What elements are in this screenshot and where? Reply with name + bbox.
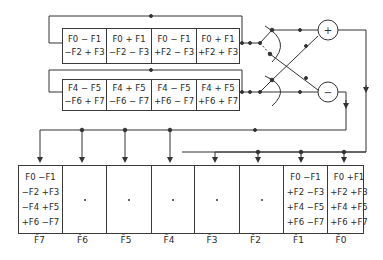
placeholder-dot — [172, 199, 174, 201]
register-b-cell: F4 + F5+F6 + F7 — [197, 80, 239, 110]
register-b-cell: F4 − F5+F6 − F7 — [152, 80, 197, 110]
register-a-cell: F0 − F1−F2 + F3 — [63, 29, 107, 63]
placeholder-dot — [216, 199, 218, 201]
label-f1: F̂1 — [277, 235, 320, 245]
label-f2: F̂2 — [234, 235, 277, 245]
register-a: F0 − F1−F2 + F3 F0 + F1−F2 − F3 F0 − F1+… — [62, 28, 240, 64]
register-a-cell: F0 + F1+F2 + F3 — [197, 29, 239, 63]
label-f7: F̂7 — [18, 235, 61, 245]
placeholder-dot — [84, 199, 86, 201]
output-cell-f3 — [195, 166, 240, 233]
placeholder-dot — [128, 199, 130, 201]
output-cell-f0: F0 +F1 +F2 +F3 +F4 +F5 +F6 +F7 — [328, 166, 370, 233]
label-f5: F̂5 — [104, 235, 148, 245]
output-cell-f5 — [107, 166, 152, 233]
register-b: F4 − F5−F6 + F7 F4 + F5−F6 − F7 F4 − F5+… — [62, 79, 240, 111]
placeholder-dot — [261, 199, 263, 201]
output-cell-f7: F0 −F1 −F2 +F3 −F4 +F5 +F6 −F7 — [19, 166, 63, 233]
label-f6: F̂6 — [61, 235, 104, 245]
register-b-cell: F4 + F5−F6 − F7 — [107, 80, 152, 110]
label-f0: F̂0 — [320, 235, 362, 245]
register-b-cell: F4 − F5−F6 + F7 — [63, 80, 107, 110]
output-labels: F̂7 F̂6 F̂5 F̂4 F̂3 F̂2 F̂1 F̂0 — [18, 235, 362, 245]
output-register: F0 −F1 −F2 +F3 −F4 +F5 +F6 −F7 F0 −F1 +F… — [18, 165, 364, 234]
output-cell-f6 — [63, 166, 107, 233]
minus-adder: − — [324, 87, 332, 98]
label-f4: F̂4 — [148, 235, 190, 245]
plus-adder: + — [324, 25, 332, 36]
label-f3: F̂3 — [190, 235, 234, 245]
output-cell-f2 — [240, 166, 284, 233]
output-cell-f4 — [152, 166, 195, 233]
output-cell-f1: F0 −F1 +F2 −F3 +F4 −F5 +F6 −F7 — [284, 166, 328, 233]
register-a-cell: F0 − F1+F2 − F3 — [152, 29, 197, 63]
register-a-cell: F0 + F1−F2 − F3 — [107, 29, 152, 63]
